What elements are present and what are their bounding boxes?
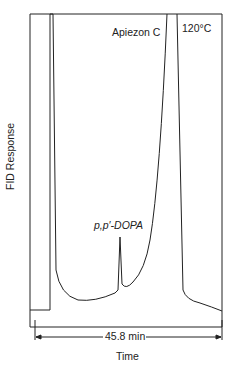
chromatogram (0, 0, 237, 373)
late-peak-trace (177, 14, 222, 311)
x-axis-title: Time (116, 350, 139, 362)
temperature-label: 120°C (182, 22, 211, 34)
x-axis-line (30, 310, 222, 327)
peak-label: p,p′-DOPA (94, 219, 143, 231)
phase-label: Apiezon C (112, 26, 160, 38)
chromatogram-trace (30, 14, 167, 310)
y-axis-title: FID Response (4, 123, 16, 190)
duration-label: 45.8 min (105, 330, 145, 342)
